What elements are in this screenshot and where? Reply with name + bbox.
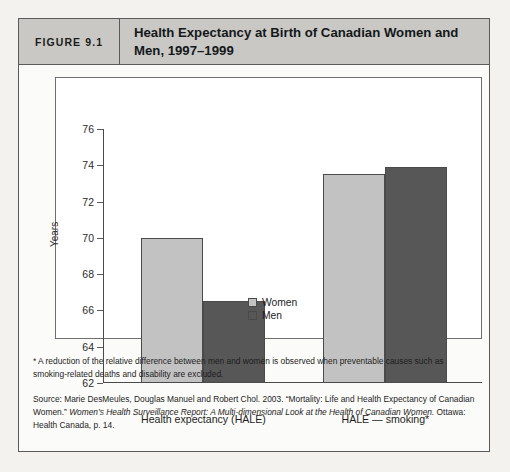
y-axis-tick-label: 74 [82,159,94,171]
legend-swatch-icon [248,311,257,320]
y-axis-title: Years [49,222,60,247]
y-axis-tick-label: 64 [82,341,94,353]
figure-body: Years 6264666870727476Health expectancy … [19,65,489,451]
y-axis-tick [97,129,103,130]
figure-footnote: * A reduction of the relative difference… [33,355,477,381]
figure-title: Health Expectancy at Birth of Canadian W… [120,19,489,64]
legend-label: Women [262,297,297,308]
figure-header: FIGURE 9.1 Health Expectancy at Birth of… [19,19,489,65]
y-axis-tick [97,165,103,166]
y-axis-tick [97,202,103,203]
legend-item-men: Men [248,310,297,321]
figure-page: FIGURE 9.1 Health Expectancy at Birth of… [0,0,510,472]
y-axis-tick-label: 68 [82,268,94,280]
chart-area: Years 6264666870727476Health expectancy … [19,65,491,357]
source-title-italic: Women’s Health Surveillance Report: A Mu… [69,407,434,417]
legend-item-women: Women [248,297,297,308]
y-axis-tick-label: 66 [82,304,94,316]
chart-legend: WomenMen [248,297,297,323]
y-axis-tick [97,310,103,311]
y-axis-tick [97,238,103,239]
y-axis-tick-label: 72 [82,196,94,208]
y-axis-tick-label: 76 [82,123,94,135]
figure-frame: FIGURE 9.1 Health Expectancy at Birth of… [18,18,490,452]
legend-swatch-icon [248,298,257,307]
bar-men-group-2 [385,167,447,383]
bar-women-group-2 [323,174,385,383]
figure-notes: * A reduction of the relative difference… [33,355,477,432]
y-axis-tick-label: 70 [82,232,94,244]
y-axis-tick [97,274,103,275]
figure-number: FIGURE 9.1 [19,19,120,64]
figure-source: Source: Marie DesMeules, Douglas Manuel … [33,393,477,432]
chart-axes: 6264666870727476Health expectancy (HALE)… [103,129,482,383]
y-axis-line [103,129,104,383]
y-axis-tick [97,347,103,348]
legend-label: Men [262,310,282,321]
